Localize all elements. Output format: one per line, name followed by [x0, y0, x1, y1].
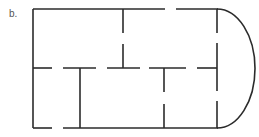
semicircular-bay-wall — [217, 9, 255, 128]
floor-plan-diagram — [0, 0, 259, 137]
